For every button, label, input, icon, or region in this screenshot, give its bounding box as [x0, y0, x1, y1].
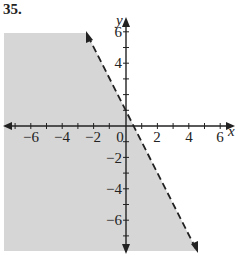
- svg-text:−4: −4: [106, 181, 122, 197]
- y-axis-up-arrow-icon: [122, 17, 130, 27]
- y-axis-label: y: [114, 12, 123, 28]
- x-axis-label: x: [227, 123, 235, 139]
- svg-text:−2: −2: [85, 129, 101, 145]
- svg-text:−2: −2: [106, 150, 122, 166]
- svg-text:2: 2: [153, 129, 161, 145]
- svg-text:4: 4: [185, 129, 193, 145]
- inequality-graph: −6−4−2 0 246 64 −2−4−6 x y: [0, 0, 238, 263]
- svg-text:−6: −6: [106, 212, 122, 228]
- svg-text:4: 4: [115, 55, 123, 71]
- svg-text:−4: −4: [54, 129, 70, 145]
- svg-text:−6: −6: [23, 129, 39, 145]
- boundary-up-arrow-icon: [86, 31, 93, 43]
- svg-text:0: 0: [116, 129, 124, 145]
- x-tick-labels: −6−4−2 0 246: [23, 129, 224, 145]
- svg-text:6: 6: [216, 129, 224, 145]
